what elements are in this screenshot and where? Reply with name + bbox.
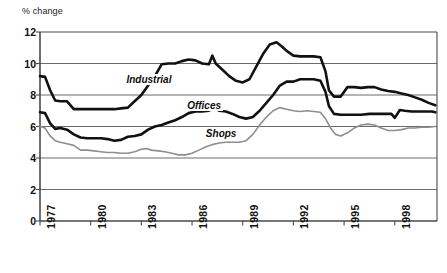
x-tick-label: 1989 (248, 204, 260, 229)
x-tick-label: 1977 (45, 204, 57, 229)
x-tick-label: 1980 (96, 204, 108, 229)
x-tick-label: 1995 (349, 204, 361, 229)
x-tick-label: 1998 (400, 204, 412, 229)
x-tick-label: 1986 (197, 204, 209, 229)
series-label-industrial: Industrial (124, 74, 173, 85)
x-tick-label: 1992 (298, 204, 310, 229)
series-label-shops: Shops (204, 128, 239, 139)
x-tick-label: 1983 (146, 204, 158, 229)
series-line-industrial (40, 42, 435, 109)
chart-container: % change 121086420 197719801983198619891… (0, 0, 447, 273)
series-label-offices: Offices (185, 100, 223, 111)
